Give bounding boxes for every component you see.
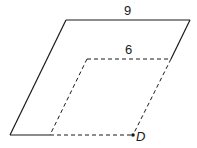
outer-parallelogram [10, 20, 190, 135]
outer-top-label: 9 [124, 3, 131, 18]
inner-parallelogram [50, 59, 171, 135]
outer-left-side [10, 20, 66, 135]
inner-right-side [133, 59, 171, 135]
inner-top-label: 6 [125, 42, 132, 57]
point-d-label: D [136, 129, 145, 144]
diagram-canvas: 9 6 D [0, 0, 197, 148]
outer-right-side [171, 20, 190, 59]
inner-left-side [50, 59, 87, 135]
point-d-dot [131, 133, 135, 137]
